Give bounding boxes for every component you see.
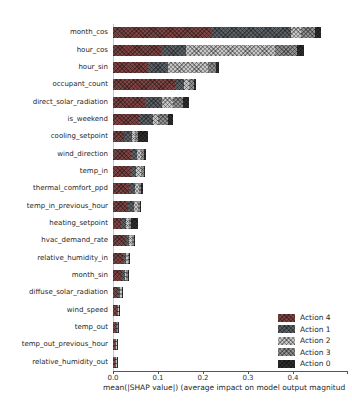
- legend-label: Action 0: [300, 359, 331, 368]
- y-tick-label: hour_sin: [2, 62, 108, 73]
- x-tick-label: 0.4: [287, 374, 298, 382]
- bar-segment-action-3: [173, 97, 183, 108]
- x-tick-label: 0.0: [107, 374, 118, 382]
- bar-row: month_cos: [113, 27, 347, 38]
- legend-swatch-icon: [278, 360, 295, 368]
- y-tick-label: temp_in_previous_hour: [2, 201, 108, 212]
- x-tick-label: 0.3: [242, 374, 253, 382]
- y-tick-label: temp_out_previous_hour: [2, 339, 108, 350]
- legend-item: Action 2: [278, 335, 331, 347]
- y-tick-label: is_weekend: [2, 114, 108, 125]
- legend-item: Action 0: [278, 358, 331, 370]
- y-tick-label: heating_setpoint: [2, 218, 108, 229]
- legend-label: Action 2: [300, 336, 331, 345]
- y-tick-label: occupant_count: [2, 79, 108, 90]
- bar-segment-action-4: [113, 201, 128, 212]
- bar-segment-action-1: [124, 131, 132, 142]
- bar-segment-action-4: [113, 166, 131, 177]
- bar-row: temp_in_previous_hour: [113, 201, 347, 212]
- bar-segment-action-3: [208, 62, 216, 73]
- bar-segment-action-4: [113, 218, 121, 229]
- bar-segment-action-0: [128, 270, 129, 281]
- stacked-bar: [113, 149, 347, 160]
- bar-segment-action-0: [297, 45, 304, 56]
- bar-segment-action-2: [186, 45, 274, 56]
- bar-segment-action-1: [145, 97, 162, 108]
- bar-segment-action-1: [148, 62, 168, 73]
- y-tick-label: wind_speed: [2, 305, 108, 316]
- bar-row: direct_solar_radiation: [113, 97, 347, 108]
- x-axis-line: [113, 371, 347, 372]
- y-tick-label: thermal_comfort_ppd: [2, 183, 108, 194]
- bar-segment-action-3: [275, 45, 297, 56]
- bar-segment-action-4: [113, 183, 129, 194]
- bar-row: diffuse_solar_radiation: [113, 287, 347, 298]
- bar-segment-action-0: [194, 79, 196, 90]
- stacked-bar: [113, 114, 347, 125]
- bar-segment-action-3: [158, 114, 168, 125]
- y-tick-label: relative_humidity_in: [2, 253, 108, 264]
- stacked-bar: [113, 218, 347, 229]
- legend-label: Action 1: [300, 325, 331, 334]
- bar-segment-action-2: [168, 62, 208, 73]
- bar-segment-action-0: [140, 201, 141, 212]
- y-tick-label: wind_direction: [2, 149, 108, 160]
- bar-segment-action-1: [175, 79, 184, 90]
- bar-segment-action-0: [216, 62, 219, 73]
- bar-segment-action-4: [113, 97, 145, 108]
- bar-segment-action-4: [113, 27, 211, 38]
- bar-row: occupant_count: [113, 79, 347, 90]
- bar-segment-action-0: [183, 97, 189, 108]
- bar-row: hvac_demand_rate: [113, 235, 347, 246]
- bar-segment-action-1: [161, 45, 186, 56]
- x-tick-label: 0.2: [197, 374, 208, 382]
- bar-row: relative_humidity_in: [113, 253, 347, 264]
- bar-row: heating_setpoint: [113, 218, 347, 229]
- bar-row: wind_direction: [113, 149, 347, 160]
- legend-swatch-icon: [278, 314, 295, 322]
- bar-row: hour_cos: [113, 45, 347, 56]
- legend: Action 4Action 1Action 2Action 3Action 0: [278, 312, 331, 370]
- y-tick-label: cooling_setpoint: [2, 131, 108, 142]
- bar-segment-action-0: [129, 253, 130, 264]
- bar-segment-action-1: [139, 114, 153, 125]
- bar-segment-action-3: [301, 27, 315, 38]
- bar-segment-action-0: [138, 131, 148, 142]
- bar-segment-action-0: [131, 218, 137, 229]
- legend-swatch-icon: [278, 337, 295, 345]
- bar-segment-action-0: [315, 27, 321, 38]
- bar-segment-action-0: [141, 183, 143, 194]
- y-tick-label: month_sin: [2, 270, 108, 281]
- bar-segment-action-2: [291, 27, 301, 38]
- bar-segment-action-4: [113, 235, 126, 246]
- stacked-bar: [113, 79, 347, 90]
- y-tick-label: relative_humidity_out: [2, 357, 108, 368]
- bar-row: thermal_comfort_ppd: [113, 183, 347, 194]
- stacked-bar: [113, 201, 347, 212]
- stacked-bar: [113, 131, 347, 142]
- stacked-bar: [113, 183, 347, 194]
- bar-segment-action-4: [113, 79, 175, 90]
- bar-segment-action-0: [144, 149, 146, 160]
- bar-segment-action-4: [113, 131, 124, 142]
- bar-segment-action-4: [113, 45, 161, 56]
- bar-segment-action-4: [113, 270, 122, 281]
- stacked-bar: [113, 45, 347, 56]
- bar-row: is_weekend: [113, 114, 347, 125]
- bar-row: temp_in: [113, 166, 347, 177]
- legend-swatch-icon: [278, 348, 295, 356]
- y-tick-label: direct_solar_radiation: [2, 97, 108, 108]
- bar-segment-action-4: [113, 62, 148, 73]
- x-tick-label: 0.1: [152, 374, 163, 382]
- y-tick-label: temp_in: [2, 166, 108, 177]
- legend-item: Action 1: [278, 324, 331, 336]
- bar-segment-action-4: [113, 253, 123, 264]
- bar-segment-action-4: [113, 149, 131, 160]
- stacked-bar: [113, 166, 347, 177]
- stacked-bar: [113, 62, 347, 73]
- stacked-bar: [113, 287, 347, 298]
- legend-item: Action 3: [278, 347, 331, 359]
- legend-label: Action 3: [300, 348, 331, 357]
- y-tick-label: temp_out: [2, 322, 108, 333]
- stacked-bar: [113, 235, 347, 246]
